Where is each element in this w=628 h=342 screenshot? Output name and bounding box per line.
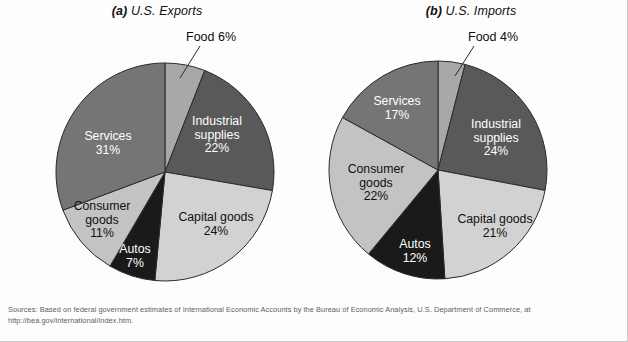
pie-imports-svg (327, 59, 549, 281)
callout-food-exports: Food 6% (186, 30, 236, 44)
panel-us-exports: (a) U.S. Exports Food 6% Industrial supp… (0, 0, 314, 300)
panel-a-title: (a) U.S. Exports (0, 4, 314, 18)
figure-container: (a) U.S. Exports Food 6% Industrial supp… (0, 0, 628, 342)
panel-b-label: (b) (426, 4, 442, 18)
pie-chart-imports (327, 59, 549, 281)
panel-b-title-text: U.S. Imports (446, 4, 517, 18)
panel-b-title: (b) U.S. Imports (314, 4, 628, 18)
panel-a-title-text: U.S. Exports (131, 4, 202, 18)
pie-exports-svg (54, 61, 276, 283)
sources-note: Sources: Based on federal government est… (8, 305, 618, 326)
panel-a-label: (a) (112, 4, 128, 18)
callout-food-imports: Food 4% (468, 30, 518, 44)
pie-chart-exports (54, 61, 276, 283)
pie-slice-capital-goods (155, 172, 273, 281)
